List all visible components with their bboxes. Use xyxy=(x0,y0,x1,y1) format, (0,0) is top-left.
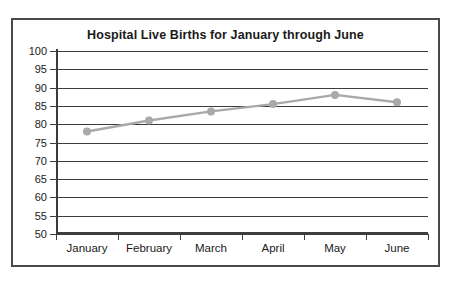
data-point-marker xyxy=(269,100,277,108)
x-axis-tick xyxy=(180,234,181,240)
data-point-marker xyxy=(83,128,91,136)
x-axis-tick-label: March xyxy=(195,242,227,254)
data-point-marker xyxy=(393,98,401,106)
y-axis-tick-label: 75 xyxy=(17,137,47,149)
x-axis-tick xyxy=(428,234,429,240)
x-axis-tick xyxy=(366,234,367,240)
chart-figure: Hospital Live Births for January through… xyxy=(11,18,440,267)
x-axis-tick xyxy=(304,234,305,240)
y-axis-tick-label: 70 xyxy=(17,155,47,167)
x-axis-tick xyxy=(242,234,243,240)
x-axis-tick xyxy=(118,234,119,240)
plot-area: 50556065707580859095100 JanuaryFebruaryM… xyxy=(56,51,428,234)
y-axis-tick-label: 95 xyxy=(17,63,47,75)
x-axis-tick xyxy=(56,234,57,240)
x-axis-tick-label: May xyxy=(324,242,346,254)
series-line-chart xyxy=(56,51,428,234)
x-axis-tick-label: June xyxy=(385,242,410,254)
y-axis-tick-label: 80 xyxy=(17,118,47,130)
x-axis-tick-label: January xyxy=(67,242,108,254)
y-axis-tick-label: 100 xyxy=(17,45,47,57)
y-axis-tick-label: 85 xyxy=(17,100,47,112)
data-point-marker xyxy=(331,91,339,99)
x-axis-tick-label: April xyxy=(261,242,284,254)
y-axis-tick-label: 60 xyxy=(17,191,47,203)
y-axis-tick-label: 55 xyxy=(17,210,47,222)
x-axis-tick-label: February xyxy=(126,242,172,254)
y-axis-tick-label: 65 xyxy=(17,173,47,185)
series-line xyxy=(87,95,397,132)
data-point-marker xyxy=(207,107,215,115)
y-axis-tick-label: 50 xyxy=(17,228,47,240)
y-axis-tick-label: 90 xyxy=(17,82,47,94)
data-point-marker xyxy=(145,117,153,125)
chart-title: Hospital Live Births for January through… xyxy=(13,28,438,42)
